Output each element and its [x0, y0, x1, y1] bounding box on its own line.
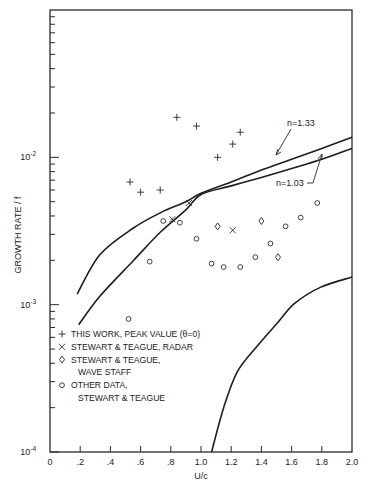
theory-curves [77, 137, 352, 452]
data-point [177, 220, 182, 225]
data-point [126, 317, 131, 322]
x-tick-label: 0 [47, 457, 52, 467]
x-axis-label: U/c [194, 471, 208, 481]
circle-icon [315, 201, 320, 206]
leader-line [307, 154, 322, 183]
annotation-n-1-33: n=1.33 [287, 118, 315, 128]
y-axis-ticks: 10-210-310-4 [20, 17, 59, 457]
circle-icon [268, 241, 273, 246]
x-tick-label: 1.8 [316, 457, 329, 467]
data-point [238, 265, 243, 270]
circle-icon [177, 220, 182, 225]
data-point [268, 241, 273, 246]
data-point [173, 114, 180, 121]
x-tick-label: 1.2 [225, 457, 238, 467]
data-point [161, 219, 166, 224]
data-point [230, 227, 236, 233]
data-point [209, 261, 214, 266]
legend-label: STEWART & TEAGUE, [71, 355, 160, 365]
data-point [127, 179, 134, 186]
circle-icon [283, 224, 288, 229]
legend-label: OTHER DATA, [71, 380, 128, 390]
data-point [137, 189, 144, 196]
y-tick-label: 10-3 [20, 298, 36, 310]
diamond-icon [60, 356, 65, 363]
x-tick-label: .4 [107, 457, 115, 467]
circle-icon [194, 236, 199, 241]
circle-icon [298, 215, 303, 220]
legend-label: STEWART & TEAGUE, RADAR [71, 342, 193, 352]
circle-icon [161, 219, 166, 224]
legend-marker [60, 356, 65, 363]
circle-icon [60, 383, 65, 388]
data-point [193, 123, 200, 130]
annotation-n-1-03: n=1.03 [276, 178, 304, 188]
data-point [157, 187, 164, 194]
x-tick-label: .6 [137, 457, 145, 467]
diamond-icon [215, 223, 220, 230]
data-point [215, 223, 220, 230]
data-point [194, 236, 199, 241]
circle-icon [209, 261, 214, 266]
data-point [298, 215, 303, 220]
data-point [259, 217, 264, 224]
data-point [237, 129, 244, 136]
circle-icon [221, 265, 226, 270]
data-point [283, 224, 288, 229]
circle-icon [126, 317, 131, 322]
legend-label: WAVE STAFF [78, 367, 131, 377]
data-point [214, 154, 221, 161]
x-tick-label: 1.6 [285, 457, 298, 467]
theory-curve [212, 277, 352, 452]
circle-icon [238, 265, 243, 270]
data-point [315, 201, 320, 206]
data-point [253, 255, 258, 260]
data-point [276, 254, 281, 261]
legend-marker [60, 383, 65, 388]
circle-icon [147, 259, 152, 264]
curve-annotations: n=1.33n=1.03 [276, 118, 322, 188]
x-tick-label: 1.0 [195, 457, 208, 467]
diamond-icon [259, 217, 264, 224]
diamond-icon [276, 254, 281, 261]
data-point [221, 265, 226, 270]
data-point [147, 259, 152, 264]
x-tick-label: 2.0 [346, 457, 359, 467]
x-axis-ticks: 0.2.4.6.81.01.21.41.61.82.0 [47, 446, 358, 467]
legend-label: THIS WORK, PEAK VALUE (θ=0) [71, 329, 200, 339]
data-points [126, 114, 320, 322]
legend: THIS WORK, PEAK VALUE (θ=0)STEWART & TEA… [59, 329, 201, 403]
x-tick-label: 1.4 [255, 457, 268, 467]
legend-marker [59, 344, 65, 350]
x-tick-label: .2 [76, 457, 84, 467]
growth-rate-chart: 10-210-310-4 0.2.4.6.81.01.21.41.61.82.0… [0, 0, 369, 487]
y-tick-label: 10-4 [20, 445, 36, 457]
y-tick-label: 10-2 [20, 150, 36, 162]
theory-curve [77, 137, 352, 294]
leader-line [276, 129, 291, 155]
y-axis-label: GROWTH RATE / f [13, 196, 23, 273]
data-point [229, 141, 236, 148]
circle-icon [253, 255, 258, 260]
legend-marker [59, 331, 66, 338]
x-tick-label: .8 [167, 457, 175, 467]
legend-label: STEWART & TEAGUE [78, 393, 165, 403]
